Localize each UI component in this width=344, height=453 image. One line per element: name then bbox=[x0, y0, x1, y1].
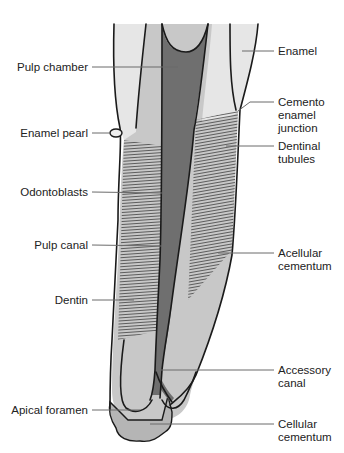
label-apical-foramen: Apical foramen bbox=[11, 404, 88, 416]
label-enamel-pearl: Enamel pearl bbox=[20, 127, 88, 139]
label-pulp-canal: Pulp canal bbox=[34, 239, 88, 251]
leader-cemento-enamel-junction bbox=[238, 102, 274, 111]
label-acellular-cementum: Acellular cementum bbox=[278, 247, 332, 272]
label-pulp-chamber: Pulp chamber bbox=[17, 61, 88, 73]
label-odontoblasts: Odontoblasts bbox=[20, 186, 88, 198]
label-enamel: Enamel bbox=[278, 45, 317, 57]
label-accessory-canal: Accessory canal bbox=[278, 364, 334, 389]
label-dentin: Dentin bbox=[55, 294, 88, 306]
label-dentinal-tubules: Dentinal tubules bbox=[278, 140, 323, 165]
label-cemento-enamel-junction: Cemento enamel junction bbox=[277, 96, 328, 134]
tooth-diagram: Pulp chamber Enamel pearl Odontoblasts P… bbox=[0, 0, 344, 453]
label-cellular-cementum: Cellular cementum bbox=[278, 418, 332, 443]
enamel-pearl bbox=[110, 129, 122, 137]
